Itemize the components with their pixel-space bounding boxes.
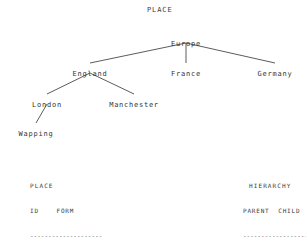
hierarchy-table-title: HIERARCHY	[243, 182, 306, 190]
tree-node-germany: Germany	[258, 70, 293, 78]
place-hierarchy-tree: PLACE EuropeEnglandFranceGermanyLondonMa…	[0, 0, 306, 160]
tree-node-england: England	[73, 70, 108, 78]
hierarchy-table: HIERARCHY PARENT CHILD -----------------…	[243, 166, 306, 237]
hierarchy-table-rule: -------------------	[243, 232, 306, 237]
tree-node-france: France	[171, 70, 201, 78]
diagram-title: PLACE	[147, 6, 173, 14]
place-table: PLACE ID FORM -------------------- N1 Eu…	[30, 166, 102, 237]
tree-node-wapping: Wapping	[19, 130, 54, 138]
tree-node-manchester: Manchester	[109, 101, 159, 109]
tree-node-europe: Europe	[171, 40, 201, 48]
hierarchy-table-header: PARENT CHILD	[243, 207, 306, 215]
place-table-title: PLACE	[30, 182, 102, 190]
place-table-rule: --------------------	[30, 232, 102, 237]
place-table-header: ID FORM	[30, 207, 102, 215]
diagram-page: PLACE EuropeEnglandFranceGermanyLondonMa…	[0, 0, 306, 237]
tree-node-london: London	[32, 101, 62, 109]
